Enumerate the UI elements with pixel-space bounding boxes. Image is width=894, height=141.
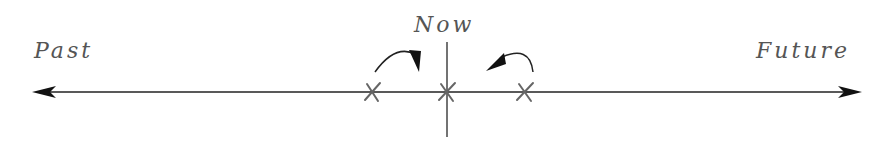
future-to-now-arrow-icon bbox=[486, 53, 533, 72]
timeline-diagram bbox=[0, 0, 894, 141]
past-to-now-arrow-icon bbox=[375, 50, 421, 72]
